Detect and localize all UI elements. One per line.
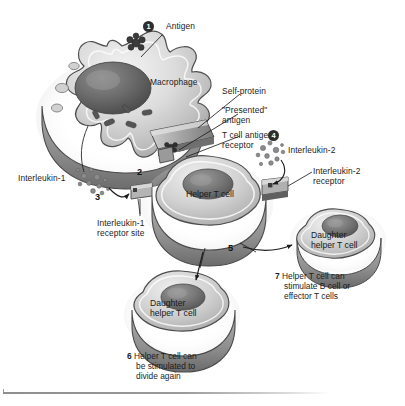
label-macrophage: Macrophage bbox=[150, 78, 198, 88]
label-self-protein: Self-protein bbox=[222, 87, 266, 97]
footer-rule bbox=[3, 392, 330, 394]
label-presented-antigen-line2: antigen bbox=[222, 116, 250, 126]
label-helper-t-cell: Helper T cell bbox=[186, 190, 234, 200]
step-marker-3: 3 bbox=[95, 193, 100, 202]
t-cell-antigen-receptor bbox=[158, 147, 174, 163]
label-interleukin-2: Interleukin-2 bbox=[288, 146, 335, 156]
step-marker-2: 2 bbox=[137, 168, 142, 177]
step-7-line3: effector T cells bbox=[284, 292, 338, 302]
step-marker-4: 4 bbox=[268, 130, 279, 141]
label-t-cell-antigen-receptor-line2: receptor bbox=[222, 141, 254, 151]
interleukin-2-cytokines bbox=[256, 141, 285, 166]
step-6-line3: divide again bbox=[136, 372, 181, 382]
step-7-caption: 7 Helper T cell can stimulate B cell or … bbox=[275, 272, 401, 301]
label-daughter-bottom-line2: helper T cell bbox=[150, 309, 197, 319]
label-daughter-right-line2: helper T cell bbox=[311, 241, 358, 251]
step-4-number: 4 bbox=[271, 132, 275, 139]
interleukin-2-receptor bbox=[262, 177, 288, 201]
label-antigen: Antigen bbox=[166, 22, 195, 32]
step-7-line1: Helper T cell can bbox=[282, 271, 345, 281]
step-1-number: 1 bbox=[146, 23, 150, 30]
label-interleukin-1: Interleukin-1 bbox=[18, 174, 65, 184]
step-6-caption: 6 Helper T cell can be stimulated to div… bbox=[127, 352, 257, 381]
figure-canvas: 1 Antigen Macrophage Self-protein "Prese… bbox=[0, 0, 405, 406]
step-6-number: 6 bbox=[127, 351, 132, 361]
step-marker-1: 1 bbox=[143, 21, 154, 32]
step-7-number: 7 bbox=[275, 271, 280, 281]
step-marker-5: 5 bbox=[228, 244, 233, 253]
label-interleukin-2-receptor-line2: receptor bbox=[313, 177, 345, 187]
diagram-artwork bbox=[0, 0, 405, 406]
label-interleukin-1-receptor-site-line2: receptor site bbox=[97, 229, 144, 239]
step-6-line1: Helper T cell can bbox=[134, 351, 197, 361]
